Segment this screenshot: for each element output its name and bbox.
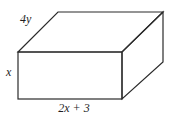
prism-diagram: 4y x 2x + 3 — [0, 0, 173, 119]
height-edge-label: x — [6, 66, 11, 78]
prism-right-face — [122, 12, 163, 99]
prism-top-face — [18, 12, 163, 52]
prism-front-face — [18, 52, 122, 99]
depth-edge-label: 4y — [20, 13, 31, 25]
width-edge-label: 2x + 3 — [44, 102, 104, 114]
